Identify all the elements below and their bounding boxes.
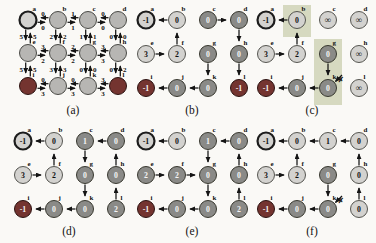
node-letter-c: c xyxy=(213,5,216,13)
edge-weight: 2 xyxy=(71,43,75,51)
node-value-d: 0 xyxy=(114,137,118,146)
node-f-e: 3e xyxy=(258,160,275,184)
panel-e: -1a0b1c0d2e2f0g0h-1i0j0k2l(e) xyxy=(131,121,255,242)
node-letter-l: l xyxy=(244,73,246,81)
panel-c: -1a0b∞c∞d3e2f0g∞h-1i0j0k∞l✗(c) xyxy=(251,0,375,121)
node-value-f: 2 xyxy=(295,171,299,180)
node-f-d: 0d xyxy=(351,126,368,150)
panel-d: -1a0b1c0d3e2f0g0h-1i0j0k2l(d) xyxy=(8,121,132,242)
node-d-b: 0b xyxy=(46,126,63,150)
panel-caption-b: (b) xyxy=(185,104,199,117)
node-value-e: 3 xyxy=(144,50,148,59)
node-circle-e xyxy=(20,45,37,62)
edge-weight: 5 xyxy=(20,33,24,41)
node-letter-k: k xyxy=(93,71,97,79)
node-value-a: -1 xyxy=(20,137,27,146)
node-value-b: 0 xyxy=(175,16,179,25)
node-value-l: 2 xyxy=(114,205,118,214)
node-circle-b xyxy=(50,12,67,29)
node-a-g: g xyxy=(80,38,97,62)
node-letter-i: i xyxy=(28,194,30,202)
node-letter-j: j xyxy=(301,194,304,202)
node-f-i: -1i xyxy=(258,194,275,218)
edge-weight: 3 xyxy=(101,90,105,98)
node-letter-j: j xyxy=(181,73,184,81)
node-value-h: 0 xyxy=(114,171,118,180)
node-d-d: 0d xyxy=(108,126,125,150)
node-e-e: 2e xyxy=(138,160,155,184)
node-value-a: -1 xyxy=(263,137,270,146)
node-c-h: ∞h xyxy=(351,39,368,63)
node-value-k: 0 xyxy=(326,84,330,93)
node-letter-a: a xyxy=(151,126,155,134)
node-letter-g: g xyxy=(93,38,97,46)
node-letter-c: c xyxy=(90,126,93,134)
edge-weight: 5 xyxy=(20,66,24,74)
edge-weight: 0 xyxy=(41,76,45,84)
node-letter-a: a xyxy=(151,5,155,13)
node-letter-h: h xyxy=(244,39,248,47)
node-value-g: 0 xyxy=(206,171,210,180)
edge-weight: 0 xyxy=(110,66,114,74)
node-value-b: 0 xyxy=(175,137,179,146)
panel-f: -1a0b1c0d3e2f0g0h-1i0j0k0l✗(f) xyxy=(251,121,375,242)
node-letter-f: f xyxy=(59,160,62,168)
node-circle-l xyxy=(110,78,127,95)
node-value-l: ∞ xyxy=(356,83,362,93)
node-e-d: 0d xyxy=(231,126,248,150)
node-letter-h: h xyxy=(364,39,368,47)
node-letter-l: l xyxy=(123,71,125,79)
node-letter-d: d xyxy=(364,5,368,13)
node-e-g: 0g xyxy=(200,160,217,184)
node-value-g: 0 xyxy=(326,171,330,180)
node-value-i: -1 xyxy=(263,205,270,214)
node-letter-f: f xyxy=(302,39,305,47)
node-value-j: 0 xyxy=(295,84,299,93)
node-value-d: 0 xyxy=(237,16,241,25)
node-b-c: 0c xyxy=(200,5,217,29)
node-value-k: 0 xyxy=(206,205,210,214)
node-letter-k: k xyxy=(213,194,217,202)
node-value-i: -1 xyxy=(263,84,270,93)
node-letter-i: i xyxy=(151,73,153,81)
panel-caption-c: (c) xyxy=(306,104,319,117)
node-c-d: ∞d xyxy=(351,5,368,29)
node-value-c: 1 xyxy=(83,137,87,146)
node-letter-a: a xyxy=(271,126,275,134)
node-value-h: ∞ xyxy=(356,49,362,59)
node-letter-k: k xyxy=(333,194,337,202)
node-letter-e: e xyxy=(151,39,154,47)
edge-weight: 1 xyxy=(80,33,84,41)
edge-weight: 0 xyxy=(71,76,75,84)
node-letter-c: c xyxy=(333,126,336,134)
node-c-l: ∞l xyxy=(351,73,368,97)
edge-weight: 3 xyxy=(71,90,75,98)
node-letter-l: l xyxy=(244,194,246,202)
node-letter-c: c xyxy=(93,5,96,13)
edge-weight: 2 xyxy=(50,33,54,41)
node-f-g: 0g xyxy=(320,160,337,184)
edge-weight: 1 xyxy=(71,10,75,18)
node-value-e: 3 xyxy=(264,50,268,59)
node-letter-l: l xyxy=(364,194,366,202)
node-b-i: -1i xyxy=(138,73,155,97)
edge-weight: 0 xyxy=(41,24,45,32)
node-d-i: -1i xyxy=(15,194,32,218)
node-letter-a: a xyxy=(28,126,32,134)
node-e-c: 1c xyxy=(200,126,217,150)
node-value-l: 0 xyxy=(357,205,361,214)
node-circle-h xyxy=(110,45,127,62)
node-c-j: 0j xyxy=(289,73,306,97)
node-letter-j: j xyxy=(62,71,65,79)
node-letter-f: f xyxy=(302,160,305,168)
panel-caption-e: (e) xyxy=(186,225,199,238)
node-b-h: 0h xyxy=(231,39,248,63)
node-a-i: i xyxy=(20,71,37,95)
node-circle-c xyxy=(80,12,97,29)
node-d-e: 3e xyxy=(15,160,32,184)
edge-weight: 0 xyxy=(110,33,114,41)
node-a-h: h xyxy=(110,38,127,62)
node-f-c: 1c xyxy=(320,126,337,150)
node-letter-g: g xyxy=(90,160,94,168)
node-letter-c: c xyxy=(333,5,336,13)
